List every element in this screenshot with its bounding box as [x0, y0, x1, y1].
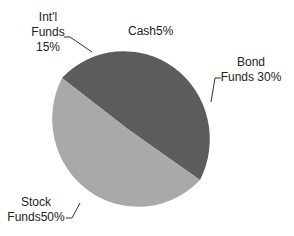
leader-line-intl — [64, 37, 92, 52]
label-stock: Stock Funds50% — [6, 195, 66, 225]
label-cash: Cash5% — [128, 24, 173, 39]
leader-line-stock — [66, 203, 80, 218]
label-bond: Bond Funds 30% — [220, 55, 282, 85]
label-intl: Int'l Funds 15% — [30, 10, 66, 55]
